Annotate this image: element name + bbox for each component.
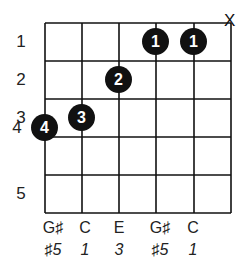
finger-dot: 1: [142, 28, 169, 55]
fret-number: 2: [11, 70, 31, 90]
chord-degree: 3: [104, 241, 134, 259]
string-note: C: [70, 219, 100, 237]
chord-degree: ♯5: [38, 241, 68, 259]
string-note: C: [178, 219, 208, 237]
chord-degree: 1: [178, 241, 208, 259]
finger-dot: 2: [105, 66, 132, 93]
string-note: G♯: [38, 219, 68, 237]
chord-degree: ♯5: [145, 241, 175, 259]
chord-degree: 1: [70, 241, 100, 259]
finger-dot: 4: [31, 114, 58, 141]
fret-number: 4: [7, 118, 27, 138]
finger-dot: 3: [68, 104, 95, 131]
finger-dot: 1: [180, 28, 207, 55]
muted-string-marker: X: [224, 11, 235, 31]
string-note: G♯: [145, 219, 175, 237]
string-note: E: [104, 219, 134, 237]
fret-number: 1: [11, 32, 31, 52]
fret-number: 5: [11, 184, 31, 204]
